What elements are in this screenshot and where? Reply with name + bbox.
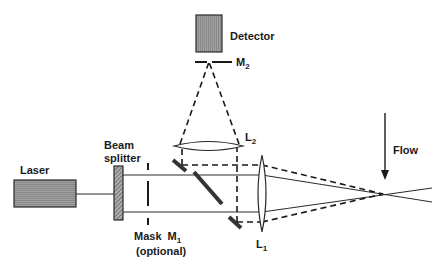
converging-beam-upper — [262, 175, 432, 202]
flow-arrow-icon — [381, 113, 389, 180]
optical-diagram: Laser Beam splitter MaskM1 (optional) L2… — [0, 0, 446, 269]
aperture-m2-label: M2 — [236, 56, 250, 71]
collection-path-lower — [262, 194, 383, 222]
mask-label: MaskM1 — [134, 230, 182, 245]
beam-splitter — [114, 166, 123, 220]
flow-label: Flow — [393, 144, 418, 156]
lens-l2-label: L2 — [245, 131, 257, 146]
collection-path-upper — [262, 165, 383, 194]
scatter-cone-left — [180, 62, 209, 144]
lens-l1 — [258, 155, 266, 232]
laser-label: Laser — [20, 164, 50, 176]
mask-optional-label: (optional) — [136, 245, 186, 257]
scatter-cone-right — [209, 62, 239, 144]
laser — [14, 180, 76, 207]
detector — [196, 15, 222, 52]
converging-beam-lower — [262, 188, 432, 212]
beam-splitter-label-2: splitter — [104, 152, 141, 164]
mirror-center — [194, 172, 222, 204]
lens-l2 — [174, 142, 243, 151]
lens-l1-label: L1 — [256, 238, 268, 253]
beam-splitter-label-1: Beam — [104, 139, 134, 151]
detector-label: Detector — [230, 30, 275, 42]
